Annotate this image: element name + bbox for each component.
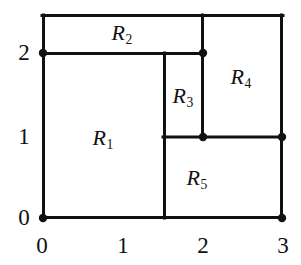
x-tick-label-3: 3 [273,234,293,257]
vertex-dot-3-0 [278,214,286,222]
x-tick-label-0: 0 [32,234,52,257]
x-tick-label-2: 2 [193,234,213,257]
region-label-r2-name: R [112,20,125,45]
region-label-r4-subscript: 4 [245,76,252,91]
vertex-dot-0-0 [39,214,47,222]
region-label-r3-name: R [173,83,186,108]
rectangle-partition-figure: 2 1 0 0 1 2 3 R1 R2 R3 R4 R5 [0,0,301,265]
region-label-r5-name: R [187,165,200,190]
region-label-r3-subscript: 3 [187,95,194,110]
vertex-dot-2-1 [199,133,207,141]
vertex-dot-2-2 [199,49,207,57]
vertex-dot-3-1 [278,133,286,141]
region-label-r4: R4 [231,66,252,90]
region-label-r1: R1 [93,127,114,151]
x-tick-label-1: 1 [113,234,133,257]
region-label-r2: R2 [112,22,133,46]
region-label-r2-subscript: 2 [126,32,133,47]
region-label-r1-name: R [93,125,106,150]
region-label-r5: R5 [187,167,208,191]
region-label-r1-subscript: 1 [107,137,114,152]
partition-diagram-svg [0,0,301,265]
vertex-dot-0-2 [39,49,47,57]
y-tick-label-2: 2 [14,41,34,64]
region-label-r4-name: R [231,64,244,89]
region-label-r5-subscript: 5 [201,177,208,192]
region-label-r3: R3 [173,85,194,109]
y-tick-label-0: 0 [14,206,34,229]
y-tick-label-1: 1 [14,125,34,148]
